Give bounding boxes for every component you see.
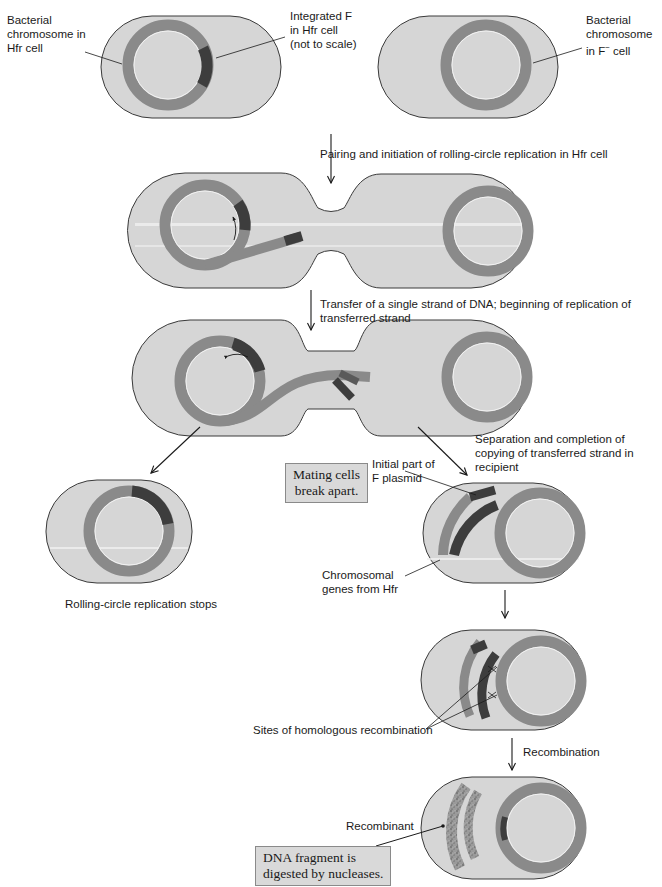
recombinant-cell xyxy=(421,777,585,879)
label-step2: Transfer of a single strand of DNA; begi… xyxy=(320,297,631,325)
recipient-cell-1 xyxy=(423,483,583,583)
paired-cells-step1 xyxy=(128,173,529,288)
label-step1: Pairing and initiation of rolling-circle… xyxy=(320,147,608,161)
fminus-cell xyxy=(378,16,558,118)
label-chromosomal-genes: Chromosomal genes from Hfr xyxy=(322,568,398,596)
label-homologous-sites: Sites of homologous recombination xyxy=(253,723,433,737)
hfr-cell-after xyxy=(46,480,192,583)
label-integrated-f: Integrated F in Hfr cell (not to scale) xyxy=(290,9,356,51)
label-fminus-suffix: cell xyxy=(610,45,630,57)
label-hfr-chromosome: Bacterial chromosome in Hfr cell xyxy=(7,13,86,55)
label-rolling-stops: Rolling-circle replication stops xyxy=(65,597,217,611)
paired-cells-step2 xyxy=(132,320,529,436)
label-fminus-chromosome: Bacterial chromosomein F− cell xyxy=(586,13,652,58)
label-recombination: Recombination xyxy=(523,745,600,759)
label-fminus-line1: Bacterial chromosome xyxy=(586,14,652,40)
recipient-cell-2 xyxy=(421,630,585,730)
note-dna-fragment: DNA fragment is digested by nucleases. xyxy=(255,846,391,886)
label-initial-f-plasmid: Initial part of F plasmid xyxy=(372,457,435,485)
label-recombinant: Recombinant xyxy=(346,819,414,833)
integrated-f-segment xyxy=(202,48,207,85)
label-step3: Separation and completion of copying of … xyxy=(475,432,634,474)
label-fminus-prefix: in F xyxy=(586,45,605,57)
note-mating-cells: Mating cells break apart. xyxy=(285,463,368,503)
hfr-cell xyxy=(101,16,281,118)
